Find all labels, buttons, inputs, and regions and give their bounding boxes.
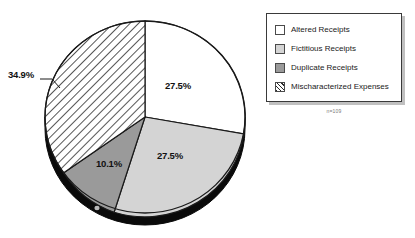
pie-slice-altered-receipts [145, 21, 245, 134]
legend-item-mischaracterized-expenses: Mischaracterized Expenses [275, 78, 397, 96]
white-swatch-icon [275, 25, 285, 35]
legend-label-fictitious-receipts: Fictitious Receipts [291, 44, 356, 54]
light-gray-swatch-icon [275, 44, 285, 54]
legend-items: Altered Receipts Fictitious Receipts Dup… [275, 21, 397, 97]
chart-canvas: 27.5% 27.5% 10.1% 34.9% Altered Receipts… [0, 0, 415, 238]
pie-label-duplicate-receipts: 10.1% [96, 158, 122, 169]
legend-label-mischaracterized-expenses: Mischaracterized Expenses [291, 82, 389, 92]
pie-chart: 27.5% 27.5% 10.1% 34.9% [0, 0, 270, 238]
dark-gray-swatch-icon [275, 63, 285, 73]
legend-item-altered-receipts: Altered Receipts [275, 21, 397, 39]
pie-label-mischaracterized-expenses: 34.9% [8, 69, 34, 80]
hatched-swatch-icon [275, 82, 285, 92]
pie-slices [45, 21, 245, 217]
legend-item-fictitious-receipts: Fictitious Receipts [275, 40, 397, 58]
pie-chart-svg [0, 0, 270, 238]
sample-size-note: n=109 [266, 108, 402, 114]
pie-label-fictitious-receipts: 27.5% [157, 150, 183, 161]
scan-artifact-mark [94, 206, 99, 210]
legend: Altered Receipts Fictitious Receipts Dup… [266, 13, 402, 102]
pie-label-altered-receipts: 27.5% [165, 80, 191, 91]
legend-item-duplicate-receipts: Duplicate Receipts [275, 59, 397, 77]
legend-label-altered-receipts: Altered Receipts [291, 25, 350, 35]
legend-label-duplicate-receipts: Duplicate Receipts [291, 63, 358, 73]
